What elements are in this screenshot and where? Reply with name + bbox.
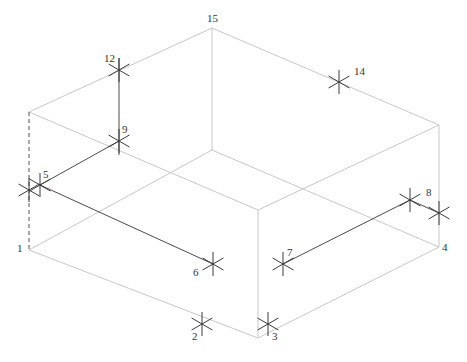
box-edge [258, 125, 439, 210]
point-label-4: 4 [442, 241, 448, 253]
point-label-7: 7 [287, 246, 293, 258]
point-markers [19, 58, 450, 336]
point-label-6: 6 [193, 266, 199, 278]
point-marker-icon [400, 188, 421, 212]
point-marker-icon [19, 178, 40, 202]
box-edge [258, 247, 439, 338]
connector-line [40, 141, 119, 185]
point-label-14: 14 [354, 65, 366, 77]
point-marker-icon [329, 70, 350, 94]
point-labels: 123456789121415 [17, 12, 448, 342]
box-edge [212, 150, 439, 247]
point-label-15: 15 [207, 12, 219, 24]
point-label-1: 1 [17, 242, 23, 254]
point-marker-icon [429, 201, 450, 225]
isometric-box-diagram: 123456789121415 [0, 0, 467, 362]
point-label-3: 3 [272, 330, 278, 342]
point-label-8: 8 [426, 186, 432, 198]
connector-line [283, 200, 410, 264]
box-edge [212, 28, 439, 125]
point-label-5: 5 [43, 168, 49, 180]
box-edge [29, 28, 212, 112]
connector-lines [40, 58, 439, 264]
point-label-12: 12 [104, 52, 115, 64]
box-edge [29, 250, 258, 338]
box-edge [29, 150, 212, 250]
point-marker-icon [203, 252, 224, 276]
point-label-2: 2 [192, 330, 198, 342]
box-wireframe [29, 28, 439, 338]
point-label-9: 9 [122, 123, 128, 135]
